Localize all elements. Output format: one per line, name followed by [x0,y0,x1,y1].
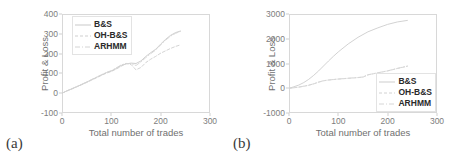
legend-label-bs-b: B&S [398,76,416,87]
x-axis-title-b: Total number of trades [316,127,411,138]
legend-line-ohbs-b [379,90,395,96]
plot-area-b: -10000100020003000 0100200300 Profit & L… [289,14,437,113]
legend-label-arhmm-a: ARHMM [94,41,127,52]
legend-label-ohbs-a: OH-B&S [94,30,128,41]
legend-item-ohbs-a: OH-B&S [75,30,128,41]
legend-label-ohbs-b: OH-B&S [398,87,432,98]
legend-line-bs-b [379,79,395,85]
y-tick-label: -1000 [263,108,285,118]
panel-label-b: (b) [233,135,251,152]
y-tick-mark [59,53,62,54]
x-tick-label: 100 [104,116,118,126]
plot-area-a: -1000100200300400 0100200300 Profit & Lo… [62,14,210,113]
x-tick-mark [437,113,438,116]
legend-label-arhmm-b: ARHMM [398,98,431,109]
legend-line-arhmm-a [75,44,91,50]
panel-a: -1000100200300400 0100200300 Profit & Lo… [0,0,227,156]
legend-item-bs-b: B&S [379,76,432,87]
x-tick-mark [289,113,290,116]
x-tick-label: 200 [154,116,168,126]
y-tick-label: 0 [53,88,58,98]
y-tick-mark [59,33,62,34]
legend-item-arhmm-a: ARHMM [75,41,128,52]
legend-item-bs-a: B&S [75,19,128,30]
legend-line-bs-a [75,22,91,28]
legend-line-ohbs-a [75,33,91,39]
x-tick-mark [210,113,211,116]
y-tick-mark [286,63,289,64]
panel-label-a: (a) [6,135,23,152]
y-axis-title-a: Profit & Loss [39,37,50,91]
y-axis-title-b: Profit & Loss [266,37,277,91]
legend-line-arhmm-b [379,101,395,107]
legend-a: B&S OH-B&S ARHMM [72,16,132,55]
x-tick-label: 300 [430,116,444,126]
figure: -1000100200300400 0100200300 Profit & Lo… [0,0,454,156]
y-tick-mark [59,93,62,94]
y-tick-mark [59,73,62,74]
x-tick-mark [160,113,161,116]
legend-item-ohbs-b: OH-B&S [379,87,432,98]
x-tick-label: 100 [331,116,345,126]
x-tick-label: 0 [60,116,65,126]
y-tick-label: 0 [280,83,285,93]
y-tick-mark [286,88,289,89]
panel-b: -10000100020003000 0100200300 Profit & L… [227,0,454,156]
y-tick-mark [286,14,289,15]
x-tick-label: 0 [287,116,292,126]
legend-item-arhmm-b: ARHMM [379,98,432,109]
x-tick-label: 300 [203,116,217,126]
x-tick-label: 200 [381,116,395,126]
x-tick-mark [338,113,339,116]
y-tick-label: 3000 [266,9,285,19]
x-axis-title-a: Total number of trades [89,127,184,138]
x-tick-mark [387,113,388,116]
x-tick-mark [62,113,63,116]
legend-b: B&S OH-B&S ARHMM [376,73,436,112]
y-tick-label: -100 [41,108,58,118]
x-tick-mark [111,113,112,116]
legend-label-bs-a: B&S [94,19,112,30]
y-tick-mark [59,14,62,15]
y-tick-label: 400 [44,9,58,19]
y-tick-mark [286,38,289,39]
